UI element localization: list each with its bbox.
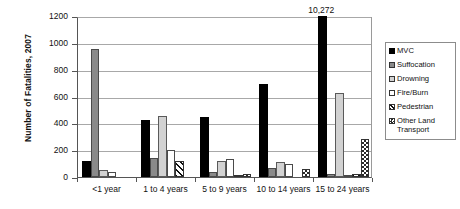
bar-group (137, 18, 196, 177)
x-axis-tick-mark (372, 178, 373, 182)
bar-chart: Number of Fatalities, 2007 0200400600800… (0, 0, 460, 209)
legend-item-label: Pedestrian (397, 103, 433, 112)
bar (327, 174, 336, 177)
legend-item[interactable]: Pedestrian (389, 103, 452, 112)
bar (352, 174, 361, 177)
y-axis-tick-label: 0 (24, 173, 68, 182)
bar-group (255, 18, 314, 177)
legend-item-label: Suffocation (397, 61, 435, 70)
x-axis-tick-label: <1 year (77, 184, 136, 194)
y-axis-tick-label: 200 (24, 146, 68, 155)
bar (141, 120, 150, 177)
legend-swatch-icon (389, 76, 395, 82)
bar (209, 172, 218, 177)
bar (259, 84, 268, 177)
bar (175, 161, 184, 177)
y-axis-tick-label: 1000 (24, 39, 68, 48)
legend-item[interactable]: Suffocation (389, 61, 452, 70)
bar (226, 159, 235, 177)
legend-swatch-icon (389, 118, 395, 124)
x-axis-tick-mark (254, 178, 255, 182)
legend-swatch-icon (389, 62, 395, 68)
bar (276, 162, 285, 177)
plot-area (77, 17, 372, 178)
legend-item-label: Other Land Transport (397, 117, 452, 134)
y-axis-title: Number of Fatalities, 2007 (23, 13, 33, 163)
legend-item[interactable]: MVC (389, 47, 452, 56)
bar-value-label: 10,272 (291, 6, 351, 15)
bar (268, 168, 277, 177)
bar-group (78, 18, 137, 177)
bar (285, 164, 294, 177)
x-axis-tick-mark (77, 178, 78, 182)
bar (318, 16, 327, 177)
bar (108, 172, 117, 177)
legend-swatch-icon (389, 90, 395, 96)
bar-group (196, 18, 255, 177)
x-axis-tick-label: 15 to 24 years (313, 184, 372, 194)
x-axis-tick-label: 5 to 9 years (195, 184, 254, 194)
bar (344, 175, 353, 177)
bar (150, 158, 159, 177)
y-axis-tick-label: 800 (24, 66, 68, 75)
legend-item-label: Drowning (397, 75, 429, 84)
y-axis-tick-label: 600 (24, 93, 68, 102)
x-axis-tick-mark (313, 178, 314, 182)
bar (335, 93, 344, 177)
bar (167, 150, 176, 178)
bar (217, 161, 226, 177)
legend-swatch-icon (389, 104, 395, 110)
bar-group (314, 18, 373, 177)
bar (99, 170, 108, 177)
x-axis-tick-label: 10 to 14 years (254, 184, 313, 194)
bar (243, 174, 252, 177)
x-axis-tick-mark (136, 178, 137, 182)
bar (82, 161, 91, 177)
legend-swatch-icon (389, 48, 395, 54)
bar (158, 116, 167, 177)
bar (91, 49, 100, 177)
legend-item[interactable]: Other Land Transport (389, 117, 452, 134)
bar (361, 139, 370, 177)
bar (200, 117, 209, 177)
y-axis-tick-label: 1200 (24, 12, 68, 21)
y-axis-tick-label: 400 (24, 119, 68, 128)
legend-item-label: MVC (397, 47, 414, 56)
legend-item-label: Fire/Burn (397, 89, 428, 98)
x-axis-tick-mark (195, 178, 196, 182)
bar (302, 169, 311, 177)
legend-item[interactable]: Fire/Burn (389, 89, 452, 98)
legend-item[interactable]: Drowning (389, 75, 452, 84)
bar (234, 175, 243, 177)
chart-legend: MVCSuffocationDrowningFire/BurnPedestria… (385, 42, 456, 140)
x-axis-tick-label: 1 to 4 years (136, 184, 195, 194)
